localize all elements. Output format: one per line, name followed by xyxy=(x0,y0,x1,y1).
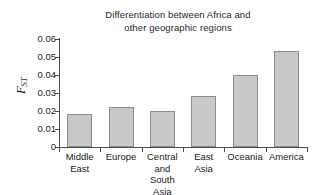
chart-figure: Differentiation between Africa and other… xyxy=(0,0,314,195)
bar xyxy=(109,107,134,147)
bar xyxy=(67,114,92,147)
x-axis-tick xyxy=(307,147,308,152)
x-axis-tick-label-line: South Asia xyxy=(142,174,183,195)
x-axis-tick-label: America xyxy=(266,151,307,163)
x-axis-tick-label-line: America xyxy=(266,151,307,163)
x-axis-tick-label-line: Europe xyxy=(100,151,141,163)
x-axis-tick-label-line: and xyxy=(142,163,183,175)
bar xyxy=(233,75,258,147)
y-axis-tick-label: 0.04 xyxy=(38,69,57,80)
y-axis-label-symbol: F xyxy=(14,86,28,94)
x-axis-tick-label-line: East xyxy=(59,163,100,175)
x-axis-tick-labels: MiddleEastEuropeCentralandSouth AsiaEast… xyxy=(59,151,307,195)
chart-title-line-1: Differentiation between Africa and xyxy=(52,8,304,21)
y-axis-line xyxy=(59,38,60,148)
y-axis-tick-label: 0.05 xyxy=(38,51,57,62)
y-axis-label-subscript: ST xyxy=(19,77,29,86)
bar xyxy=(274,51,299,147)
x-axis-tick-label-line: Oceania xyxy=(224,151,265,163)
chart-title-line-2: other geographic regions xyxy=(52,21,304,34)
x-axis-tick-label-line: Middle xyxy=(59,151,100,163)
y-axis-tick-label: 0.01 xyxy=(38,123,57,134)
x-axis-tick-label: Europe xyxy=(100,151,141,163)
x-axis-tick-label-line: Central xyxy=(142,151,183,163)
bar xyxy=(191,96,216,147)
bar xyxy=(150,111,175,147)
x-axis-tick-label-line: Asia xyxy=(183,163,224,175)
x-axis-tick-label: CentralandSouth Asia xyxy=(142,151,183,195)
y-axis-tick-label: 0 xyxy=(51,141,56,152)
x-axis-tick-label: MiddleEast xyxy=(59,151,100,174)
chart-title: Differentiation between Africa and other… xyxy=(52,8,304,34)
x-axis-tick-label: EastAsia xyxy=(183,151,224,174)
y-axis-tick-label: 0.06 xyxy=(38,33,57,44)
plot-area: 00.010.020.030.040.050.06 xyxy=(59,39,307,147)
y-axis-label: FST xyxy=(14,69,29,103)
y-axis-tick-label: 0.02 xyxy=(38,105,57,116)
x-axis-tick-label-line: East xyxy=(183,151,224,163)
y-axis-tick-label: 0.03 xyxy=(38,87,57,98)
x-axis-tick-label: Oceania xyxy=(224,151,265,163)
